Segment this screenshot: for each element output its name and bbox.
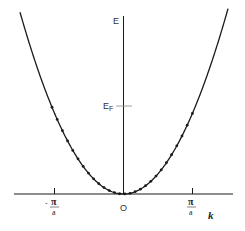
k-state-dot — [113, 191, 116, 194]
k-state-dot — [160, 168, 163, 171]
k-state-dot — [82, 165, 85, 168]
k-state-dot — [61, 129, 64, 132]
k-state-dot — [92, 177, 95, 180]
pos-pi-over-a-label: π a — [187, 196, 196, 217]
k-state-dot — [118, 192, 121, 195]
k-state-dot — [129, 192, 132, 195]
k-state-dot — [181, 135, 184, 138]
origin-label: O — [120, 203, 127, 213]
k-axis-label: k — [208, 209, 214, 221]
k-state-dot — [139, 188, 142, 191]
k-state-dot — [71, 149, 74, 152]
k-state-dot — [191, 112, 194, 115]
k-state-dot — [170, 153, 173, 156]
k-state-dot — [77, 157, 80, 160]
k-state-dots — [51, 106, 194, 196]
k-state-dot — [51, 106, 54, 109]
k-state-dot — [123, 193, 126, 196]
neg-sign: - — [45, 198, 48, 207]
neg-a-denominator: a — [52, 208, 56, 217]
k-state-dot — [97, 182, 100, 185]
k-state-dot — [175, 144, 178, 147]
fermi-level-label: EF — [103, 101, 113, 112]
k-state-dot — [149, 180, 152, 183]
k-state-dot — [66, 140, 69, 143]
k-state-dot — [56, 118, 59, 121]
e-axis-label: E — [113, 16, 119, 26]
pos-pi-numerator: π — [188, 196, 194, 207]
k-state-dot — [144, 184, 147, 187]
k-state-dot — [108, 189, 111, 192]
k-state-dot — [186, 124, 189, 127]
pos-a-denominator: a — [189, 208, 193, 217]
k-state-dot — [165, 161, 168, 164]
k-state-dot — [103, 186, 106, 189]
dispersion-diagram: E EF - π a O π a k — [0, 0, 245, 231]
k-state-dot — [155, 175, 158, 178]
k-state-dot — [134, 190, 137, 193]
neg-pi-over-a-label: - π a — [45, 196, 59, 217]
neg-pi-numerator: π — [51, 196, 57, 207]
fermi-level-subscript: F — [109, 105, 113, 112]
k-state-dot — [87, 172, 90, 175]
